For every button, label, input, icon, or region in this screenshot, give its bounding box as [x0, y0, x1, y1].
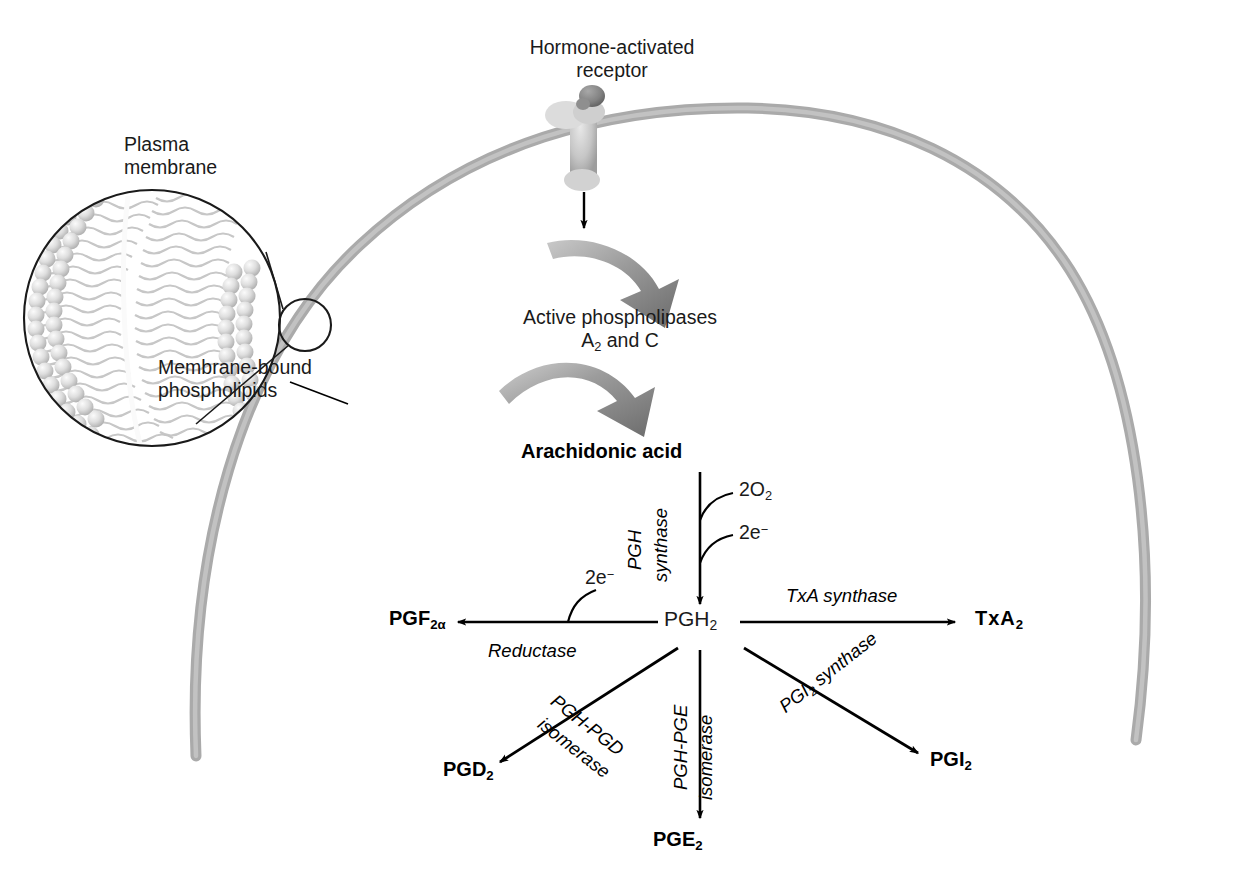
plasma-membrane-label: Plasma membrane — [124, 133, 284, 179]
pgh2-node: PGH2 — [664, 607, 717, 633]
cofactor-hook-electrons — [700, 535, 733, 563]
hormone-receptor-label: Hormone-activated receptor — [502, 36, 722, 82]
plasma-membrane-band — [195, 108, 1145, 756]
cofactor-2o2-label: 2O2 — [739, 478, 772, 503]
pgd2-node: PGD2 — [443, 758, 494, 783]
lipid-bilayer-inset — [24, 190, 331, 446]
active-phospholipases-label: Active phospholipases A2 and C — [470, 306, 770, 354]
pgh-pge-isomerase-label: PGH-PGE — [670, 705, 692, 790]
pgh-pge-isomerase-label-2: isomerase — [695, 715, 717, 800]
membrane-bound-phospholipids-label: Membrane-bound phospholipids — [158, 356, 368, 402]
phospholipase-subtypes: A2 and C — [581, 329, 659, 351]
cofactor-2e-reductase-label: 2e− — [585, 566, 614, 589]
pge2-node: PGE2 — [653, 828, 703, 853]
cofactor-2e-label: 2e− — [739, 521, 768, 544]
cofactor-hook-o2 — [700, 493, 733, 520]
pgf2alpha-node: PGF2α — [389, 607, 446, 632]
txa2-node: TxA2 — [975, 607, 1024, 632]
diagram-canvas: Hormone-activated receptor Plasma membra… — [0, 0, 1253, 881]
block-arrow-release — [499, 363, 655, 437]
arachidonic-acid-node: Arachidonic acid — [521, 440, 682, 464]
pgi2-node: PGI2 — [930, 748, 972, 773]
pgh-synthase-enzyme-label: PGH — [624, 530, 646, 570]
txa-synthase-enzyme-label: TxA synthase — [786, 585, 897, 607]
pgh-synthase-enzyme-label-2: synthase — [650, 508, 672, 582]
reductase-enzyme-label: Reductase — [488, 640, 576, 662]
cofactor-hook-reductase-electrons — [568, 590, 596, 622]
